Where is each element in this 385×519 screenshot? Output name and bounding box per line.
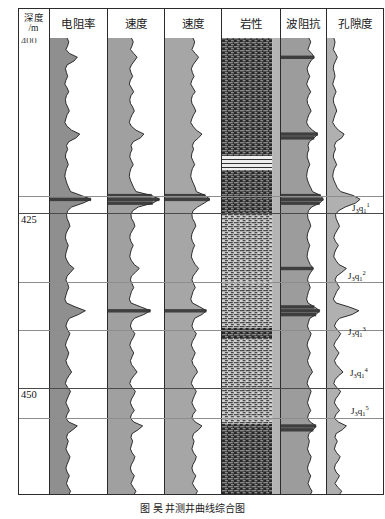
figure-caption: 图 吴 井测井曲线综合图 xyxy=(0,500,385,519)
figure-frame xyxy=(18,8,384,495)
well-log-figure: 深度/m电阻率速度速度岩性波阻抗孔隙度 400425450 J3q11J3q12… xyxy=(0,0,385,519)
